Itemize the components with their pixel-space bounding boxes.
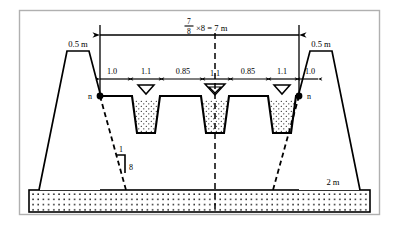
slope-vertical-label: 8 [129,163,133,172]
water-marker-right-trench [274,85,290,94]
left-node-label: n [88,92,92,101]
water-level-markers [138,84,290,95]
right-crest-label: 0.5 m [311,39,331,49]
diagram-canvas: 1.0 1.1 0.85 1.1 0.85 1.1 1.0 7 8 ×8 = 7… [0,0,399,225]
dim-label-6: 1.1 [277,67,287,76]
dim-label-7: 1.0 [305,67,315,76]
left-crest-label: 0.5 m [68,39,88,49]
dim-label-1: 1.0 [107,67,117,76]
dim-label-4: 1.1 [210,69,220,78]
overall-span-label: 7 8 ×8 = 7 m [185,17,228,36]
base-thickness-label: 2 m [326,177,339,187]
left-dashed-batter-line [100,96,126,190]
dim-label-3: 0.85 [176,67,190,76]
ground-profile-line [100,96,299,133]
slope-horizontal-label: 1 [119,145,123,154]
right-node-label: n [307,92,311,101]
span-multiplier: ×8 = 7 m [196,23,228,33]
dim-label-5: 0.85 [241,67,255,76]
slope-marker-1-in-8: 1 8 [117,145,133,173]
base-layer [29,190,370,212]
span-numerator: 7 [187,17,191,26]
span-denominator: 8 [187,27,191,36]
water-marker-left-trench [138,85,154,94]
embankment-cross-section-figure: 1.0 1.1 0.85 1.1 0.85 1.1 1.0 7 8 ×8 = 7… [0,0,399,225]
dim-label-2: 1.1 [141,67,151,76]
left-embankment-body [39,51,100,190]
